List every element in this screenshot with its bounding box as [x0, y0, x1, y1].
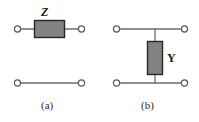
impedance-label-z: Z	[41, 6, 48, 18]
panel-a-caption: (a)	[41, 100, 53, 111]
panel-a-terminal-bottom-left	[14, 80, 20, 86]
circuit-figure: Z Y (a) (b)	[0, 0, 199, 122]
panel-b-caption: (b)	[141, 100, 154, 111]
panel-a-terminal-top-right	[78, 26, 84, 32]
panel-b-terminal-top-right	[181, 26, 187, 32]
impedance-box-z	[35, 21, 65, 38]
panel-b-terminal-top-left	[113, 26, 119, 32]
admittance-box-y	[148, 42, 163, 75]
panel-b-group	[113, 26, 187, 86]
panel-a-group	[14, 21, 84, 87]
admittance-label-y: Y	[167, 52, 176, 64]
panel-a-terminal-top-left	[14, 26, 20, 32]
panel-a-terminal-bottom-right	[78, 80, 84, 86]
panel-b-terminal-bottom-left	[113, 80, 119, 86]
panel-b-terminal-bottom-right	[181, 80, 187, 86]
